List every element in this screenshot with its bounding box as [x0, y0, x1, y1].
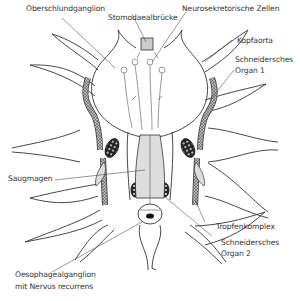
neurosekretorische-zellen — [121, 59, 165, 130]
oesophagealganglion-shape — [138, 204, 162, 270]
oberschlundganglion-shape — [92, 30, 208, 138]
label-oberschlundganglion: Oberschlundganglion — [26, 4, 105, 14]
label-neurosekretorische-zellen: Neurosekretorische Zellen — [182, 4, 279, 14]
label-oesophagealganglion-line1: Oesophagealganglion — [15, 270, 96, 280]
label-schneidersches-organ-1-line1: Schneidersches — [235, 55, 293, 65]
label-schneidersches-organ-2-line1: Schneidersches — [221, 238, 279, 248]
label-schneidersches-organ-1-line2: Organ 1 — [235, 66, 265, 76]
diagram-canvas: Oberschlundganglion Stomodaealbrücke Neu… — [0, 0, 300, 301]
label-tropfenkomplex: Tropfenkomplex — [216, 222, 275, 232]
label-stomodaealbruecke: Stomodaealbrücke — [108, 13, 178, 23]
label-kopfaorta: Kopfaorta — [237, 36, 273, 46]
stomodaealbruecke-shape — [141, 38, 153, 50]
label-schneidersches-organ-2-line2: Organ 2 — [221, 249, 251, 259]
label-oesophagealganglion-line2: mit Nervus recurrens — [15, 282, 93, 292]
label-saugmagen: Saugmagen — [8, 174, 53, 184]
